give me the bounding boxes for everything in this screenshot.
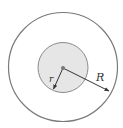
inner-radius-label: r [49, 74, 54, 84]
concentric-circles-diagram: r R [0, 0, 123, 128]
center-point [61, 66, 65, 70]
outer-radius-label: R [95, 71, 104, 84]
